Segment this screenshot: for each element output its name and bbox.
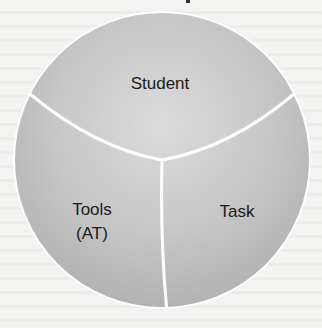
venn-circle-diagram — [0, 0, 322, 328]
segment-label-tools: Tools (AT) — [52, 198, 132, 246]
segment-label-student: Student — [110, 72, 210, 96]
tools-label-line1: Tools — [52, 198, 132, 222]
segment-label-task: Task — [197, 200, 277, 224]
tools-label-line2: (AT) — [52, 222, 132, 246]
